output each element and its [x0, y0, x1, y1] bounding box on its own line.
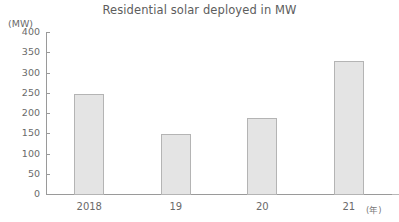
- y-axis-tick: 300: [46, 73, 50, 74]
- y-axis-tick-label: 350: [22, 46, 40, 58]
- x-axis-category-label: 20: [256, 201, 269, 212]
- x-axis-line-extension: [392, 194, 399, 195]
- bar: [74, 94, 104, 195]
- bar: [334, 61, 364, 195]
- y-axis-tick: 200: [46, 113, 50, 114]
- plot-area: 050100150200250300350400 2018192021 (年): [46, 33, 392, 195]
- y-axis-tick-label: 50: [28, 168, 40, 180]
- bar-chart: Residential solar deployed in MW (MW) 05…: [0, 0, 399, 222]
- x-axis-suffix-label: (年): [366, 203, 382, 215]
- y-axis-tick-label: 250: [22, 87, 40, 99]
- y-axis-tick-label: 300: [22, 67, 40, 79]
- y-axis-tick: 250: [46, 93, 50, 94]
- y-axis-tick-label: 400: [22, 26, 40, 38]
- bar: [161, 134, 191, 195]
- y-axis-line: [46, 33, 47, 195]
- x-axis-category-label: 2018: [77, 201, 102, 212]
- y-axis-tick: 350: [46, 52, 50, 53]
- y-axis-tick-label: 100: [22, 148, 40, 160]
- y-axis-tick: 400: [46, 32, 50, 33]
- chart-title: Residential solar deployed in MW: [0, 3, 399, 17]
- y-axis-tick: 100: [46, 154, 50, 155]
- x-axis-category-label: 21: [342, 201, 355, 212]
- y-axis-tick: 150: [46, 133, 50, 134]
- bar: [247, 118, 277, 195]
- y-axis-tick-label: 150: [22, 127, 40, 139]
- x-axis-category-label: 19: [169, 201, 182, 212]
- y-axis-tick: 50: [46, 174, 50, 175]
- y-axis-tick: 0: [46, 194, 50, 195]
- y-axis-tick-label: 200: [22, 107, 40, 119]
- y-axis-tick-label: 0: [34, 188, 40, 200]
